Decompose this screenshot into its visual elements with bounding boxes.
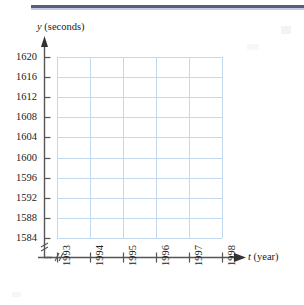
paper-speckle — [281, 26, 291, 34]
y-tick-label: 1612 — [5, 92, 37, 103]
x-tick-label: 1996 — [161, 245, 172, 266]
y-tick-label: 1588 — [5, 213, 37, 224]
y-axis-title: y (seconds) — [37, 22, 85, 33]
y-axis-arrowhead — [41, 36, 48, 47]
y-axis-variable: y — [37, 21, 42, 32]
y-axis-unit: (seconds) — [44, 21, 84, 32]
x-axis-unit: (year) — [254, 251, 279, 262]
x-tick-label: 1997 — [194, 245, 205, 266]
axis-corner-stub — [45, 250, 53, 258]
coordinate-grid-figure: y (seconds) t (year) 1584158815921596160… — [0, 0, 304, 305]
x-tick-label: 1994 — [95, 245, 106, 266]
y-tick-label: 1584 — [5, 233, 37, 244]
x-tick-label: 1995 — [128, 245, 139, 266]
paper-speckle — [247, 44, 259, 50]
y-tick-label: 1600 — [5, 153, 37, 164]
y-tick-label: 1608 — [5, 112, 37, 123]
y-tick-label: 1592 — [5, 193, 37, 204]
x-tick-label: 1993 — [62, 245, 73, 266]
x-tick-label: 1998 — [227, 245, 238, 266]
y-tick-label: 1596 — [5, 173, 37, 184]
x-axis-variable: t — [248, 251, 251, 262]
x-axis-title: t (year) — [248, 252, 279, 263]
y-tick-label: 1604 — [5, 132, 37, 143]
y-tick-label: 1620 — [5, 52, 37, 63]
y-tick-label: 1616 — [5, 72, 37, 83]
paper-speckle — [12, 292, 21, 297]
